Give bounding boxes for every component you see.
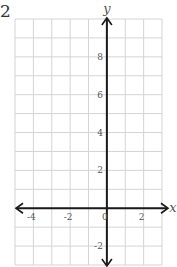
axes xyxy=(16,18,168,266)
y-axis-label: y xyxy=(102,1,111,16)
y-tick-label: 8 xyxy=(97,52,103,62)
coordinate-grid: -4-2028642-2xy xyxy=(0,0,177,267)
y-tick-label: 6 xyxy=(97,90,103,100)
tick-labels: -4-2028642-2xy xyxy=(27,1,177,251)
grid-lines xyxy=(15,19,162,265)
y-tick-label: -2 xyxy=(94,241,103,251)
y-tick-label: 2 xyxy=(97,165,103,175)
x-axis-label: x xyxy=(169,200,177,215)
x-tick-label: -2 xyxy=(64,212,73,222)
x-tick-label: -4 xyxy=(27,212,36,222)
x-tick-label: 0 xyxy=(102,212,108,222)
x-tick-label: 2 xyxy=(139,212,145,222)
y-tick-label: 4 xyxy=(97,128,103,138)
